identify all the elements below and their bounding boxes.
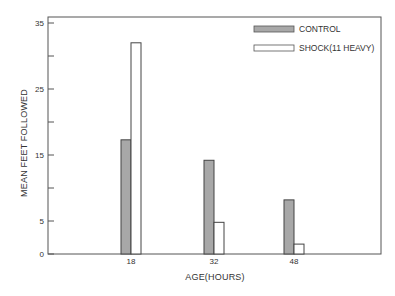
y-axis-ticks: 05152535 <box>35 19 54 259</box>
y-tick-label: 0 <box>40 250 45 259</box>
bar-shock-48 <box>294 244 304 254</box>
y-tick-label: 35 <box>35 19 44 28</box>
bar-control-18 <box>121 140 131 254</box>
y-tick-label: 5 <box>40 217 45 226</box>
legend-swatch-shock <box>254 45 294 51</box>
bar-shock-32 <box>214 222 224 254</box>
legend-label-shock: SHOCK(11 HEAVY) <box>299 43 374 53</box>
bar-shock-18 <box>131 43 141 254</box>
bar-control-32 <box>204 160 214 254</box>
x-axis-label: AGE(HOURS) <box>185 272 245 282</box>
legend: CONTROL SHOCK(11 HEAVY) <box>254 24 374 53</box>
y-tick-label: 15 <box>35 151 44 160</box>
bar-control-48 <box>284 200 294 254</box>
x-tick-label: 32 <box>210 257 219 266</box>
x-tick-label: 18 <box>127 257 136 266</box>
bars <box>121 43 304 254</box>
legend-swatch-control <box>254 26 294 32</box>
x-axis-ticks: 183248 <box>127 257 299 266</box>
bar-chart: 05152535 183248 CONTROL SHOCK(11 HEAVY) … <box>0 0 395 296</box>
x-tick-label: 48 <box>290 257 299 266</box>
y-axis-label: MEAN FEET FOLLOWED <box>19 89 29 197</box>
y-tick-label: 25 <box>35 85 44 94</box>
legend-label-control: CONTROL <box>299 24 341 34</box>
